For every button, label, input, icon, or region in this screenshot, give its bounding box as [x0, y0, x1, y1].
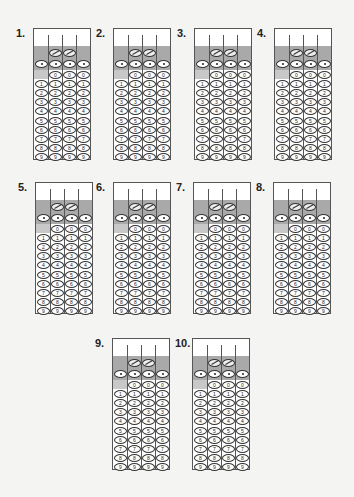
digit-bubble-2[interactable]: 2 [65, 243, 78, 251]
digit-bubble-9[interactable]: 9 [236, 463, 249, 471]
digit-bubble-9[interactable]: 9 [224, 153, 237, 161]
digit-bubble-8[interactable]: 8 [208, 454, 221, 462]
digit-bubble-3[interactable]: 3 [209, 252, 222, 260]
digit-bubble-8[interactable]: 8 [79, 298, 92, 306]
digit-bubble-0[interactable]: 0 [237, 225, 250, 233]
digit-bubble-8[interactable]: 8 [317, 298, 330, 306]
digit-bubble-1[interactable]: 1 [209, 234, 222, 242]
digit-bubble-0[interactable]: 0 [129, 71, 142, 79]
digit-bubble-7[interactable]: 7 [303, 289, 316, 297]
digit-bubble-5[interactable]: 5 [128, 427, 141, 435]
digit-bubble-1[interactable]: 1 [115, 80, 128, 88]
digit-bubble-8[interactable]: 8 [51, 298, 64, 306]
digit-bubble-8[interactable]: 8 [223, 298, 236, 306]
digit-bubble-2[interactable]: 2 [115, 89, 128, 97]
digit-bubble-8[interactable]: 8 [142, 454, 155, 462]
digit-bubble-3[interactable]: 3 [236, 408, 249, 416]
digit-bubble-6[interactable]: 6 [77, 126, 90, 134]
digit-bubble-5[interactable]: 5 [156, 427, 169, 435]
digit-bubble-6[interactable]: 6 [156, 436, 169, 444]
digit-bubble-1[interactable]: 1 [275, 234, 288, 242]
digit-bubble-8[interactable]: 8 [224, 144, 237, 152]
digit-bubble-8[interactable]: 8 [303, 298, 316, 306]
digit-bubble-7[interactable]: 7 [275, 289, 288, 297]
digit-bubble-4[interactable]: 4 [209, 261, 222, 269]
digit-bubble-6[interactable]: 6 [143, 126, 156, 134]
digit-bubble-5[interactable]: 5 [49, 117, 62, 125]
digit-bubble-2[interactable]: 2 [157, 243, 170, 251]
digit-bubble-2[interactable]: 2 [237, 243, 250, 251]
digit-bubble-9[interactable]: 9 [49, 153, 62, 161]
digit-bubble-8[interactable]: 8 [115, 144, 128, 152]
digit-bubble-7[interactable]: 7 [128, 445, 141, 453]
digit-bubble-2[interactable]: 2 [318, 89, 331, 97]
digit-bubble-9[interactable]: 9 [129, 307, 142, 315]
digit-bubble-3[interactable]: 3 [276, 98, 289, 106]
digit-bubble-4[interactable]: 4 [290, 107, 303, 115]
digit-bubble-5[interactable]: 5 [129, 271, 142, 279]
digit-bubble-5[interactable]: 5 [157, 117, 170, 125]
digit-bubble-9[interactable]: 9 [77, 153, 90, 161]
digit-bubble-5[interactable]: 5 [114, 427, 127, 435]
fraction-bar-bubble[interactable] [65, 203, 78, 211]
digit-bubble-2[interactable]: 2 [210, 89, 223, 97]
digit-bubble-8[interactable]: 8 [49, 144, 62, 152]
decimal-point-bubble[interactable] [195, 214, 208, 222]
decimal-point-bubble[interactable] [290, 60, 303, 68]
digit-bubble-5[interactable]: 5 [115, 117, 128, 125]
digit-bubble-5[interactable]: 5 [290, 117, 303, 125]
digit-bubble-6[interactable]: 6 [236, 436, 249, 444]
digit-bubble-6[interactable]: 6 [289, 280, 302, 288]
digit-bubble-1[interactable]: 1 [290, 80, 303, 88]
decimal-point-bubble[interactable] [156, 370, 169, 378]
digit-bubble-1[interactable]: 1 [143, 234, 156, 242]
digit-bubble-6[interactable]: 6 [157, 126, 170, 134]
digit-bubble-0[interactable]: 0 [222, 381, 235, 389]
digit-bubble-4[interactable]: 4 [195, 261, 208, 269]
digit-bubble-4[interactable]: 4 [115, 107, 128, 115]
decimal-point-bubble[interactable] [194, 370, 207, 378]
digit-bubble-1[interactable]: 1 [37, 234, 50, 242]
digit-bubble-7[interactable]: 7 [37, 289, 50, 297]
decimal-point-bubble[interactable] [208, 370, 221, 378]
digit-bubble-1[interactable]: 1 [77, 80, 90, 88]
digit-bubble-4[interactable]: 4 [303, 261, 316, 269]
digit-bubble-5[interactable]: 5 [224, 117, 237, 125]
digit-bubble-2[interactable]: 2 [304, 89, 317, 97]
digit-bubble-0[interactable]: 0 [157, 71, 170, 79]
digit-bubble-1[interactable]: 1 [237, 234, 250, 242]
digit-bubble-5[interactable]: 5 [318, 117, 331, 125]
digit-bubble-0[interactable]: 0 [156, 381, 169, 389]
digit-bubble-6[interactable]: 6 [49, 126, 62, 134]
digit-bubble-8[interactable]: 8 [195, 298, 208, 306]
digit-bubble-7[interactable]: 7 [114, 445, 127, 453]
digit-bubble-0[interactable]: 0 [51, 225, 64, 233]
digit-bubble-8[interactable]: 8 [65, 298, 78, 306]
digit-bubble-3[interactable]: 3 [51, 252, 64, 260]
digit-bubble-3[interactable]: 3 [115, 98, 128, 106]
digit-bubble-9[interactable]: 9 [65, 307, 78, 315]
digit-bubble-2[interactable]: 2 [51, 243, 64, 251]
digit-bubble-2[interactable]: 2 [208, 399, 221, 407]
digit-bubble-9[interactable]: 9 [237, 307, 250, 315]
digit-bubble-4[interactable]: 4 [276, 107, 289, 115]
digit-bubble-7[interactable]: 7 [304, 135, 317, 143]
answer-entry-boxes[interactable] [195, 29, 251, 46]
digit-bubble-6[interactable]: 6 [196, 126, 209, 134]
digit-bubble-8[interactable]: 8 [289, 298, 302, 306]
digit-bubble-0[interactable]: 0 [289, 225, 302, 233]
digit-bubble-3[interactable]: 3 [37, 252, 50, 260]
digit-bubble-8[interactable]: 8 [276, 144, 289, 152]
digit-bubble-8[interactable]: 8 [210, 144, 223, 152]
digit-bubble-3[interactable]: 3 [129, 98, 142, 106]
digit-bubble-1[interactable]: 1 [51, 234, 64, 242]
digit-bubble-6[interactable]: 6 [317, 280, 330, 288]
digit-bubble-2[interactable]: 2 [129, 243, 142, 251]
digit-bubble-5[interactable]: 5 [143, 117, 156, 125]
decimal-point-bubble[interactable] [143, 214, 156, 222]
digit-bubble-8[interactable]: 8 [209, 298, 222, 306]
digit-bubble-6[interactable]: 6 [276, 126, 289, 134]
digit-bubble-4[interactable]: 4 [238, 107, 251, 115]
digit-bubble-5[interactable]: 5 [208, 427, 221, 435]
digit-bubble-4[interactable]: 4 [210, 107, 223, 115]
